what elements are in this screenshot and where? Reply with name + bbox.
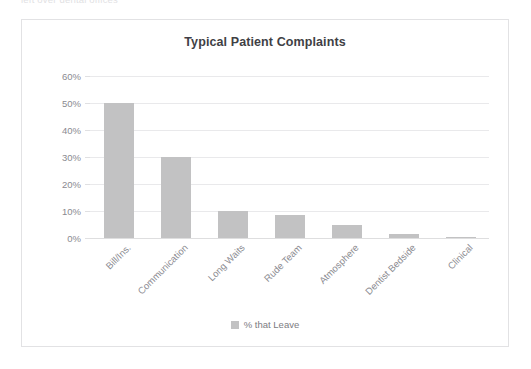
category-label-text: Communication [135,242,189,296]
chart-card: Typical Patient Complaints 0%10%20%30%40… [21,19,509,347]
y-axis-tick-label: 20% [62,179,81,190]
category-label-text: Rude Team [261,242,303,284]
y-axis-tick-label: 30% [62,152,81,163]
y-axis-tick-label: 0% [67,233,81,244]
category-axis-labels: Bill/Ins.CommunicationLong WaitsRude Tea… [90,238,489,308]
plot-area: 0%10%20%30%40%50%60% [90,76,489,238]
clipped-header-text: left over dental offices [21,0,341,6]
bar-communication[interactable] [161,157,191,238]
bar-atmosphere[interactable] [332,225,362,239]
category-label-text: Clinical [445,242,474,271]
category-label-text: Dentist Bedside [362,242,417,297]
chart-title: Typical Patient Complaints [22,35,508,49]
bar-rude-team[interactable] [275,215,305,238]
category-label-text: Atmosphere [316,242,360,286]
y-axis-tick-label: 10% [62,206,81,217]
legend-swatch-icon [231,321,239,329]
y-axis-tick-label: 40% [62,125,81,136]
legend-label: % that Leave [244,319,299,330]
category-label-text: Long Waits [205,242,246,283]
y-axis-tick-label: 60% [62,71,81,82]
chart-legend: % that Leave [22,319,508,330]
bars-layer [90,76,489,238]
category-label-text: Bill/Ins. [103,242,132,271]
y-axis-tick-label: 50% [62,98,81,109]
bar-bill-ins[interactable] [104,103,134,238]
